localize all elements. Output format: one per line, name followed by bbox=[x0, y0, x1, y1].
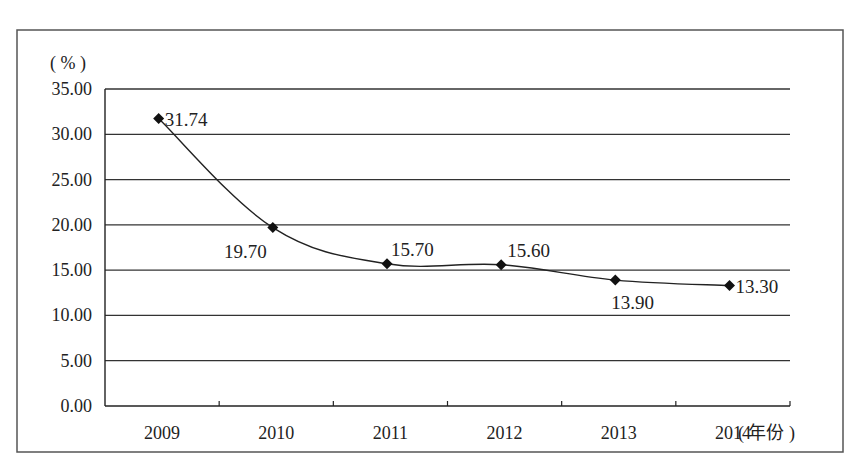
x-tick-label: 2009 bbox=[144, 423, 180, 443]
data-label: 31.74 bbox=[165, 109, 208, 130]
x-tick-label: 2011 bbox=[373, 423, 408, 443]
data-label: 19.70 bbox=[224, 241, 267, 262]
x-axis-unit: ( 年份 ) bbox=[738, 423, 795, 444]
data-label: 15.70 bbox=[391, 239, 434, 260]
y-axis-ticks: 0.005.0010.0015.0020.0025.0030.0035.00 bbox=[52, 79, 93, 416]
y-tick-label: 0.00 bbox=[61, 396, 93, 416]
gridlines bbox=[105, 89, 790, 361]
data-label: 13.30 bbox=[735, 276, 778, 297]
diamond-marker-icon bbox=[724, 280, 735, 291]
x-tick-label: 2013 bbox=[601, 423, 637, 443]
diamond-marker-icon bbox=[381, 258, 392, 269]
y-tick-label: 30.00 bbox=[52, 124, 93, 144]
diamond-marker-icon bbox=[610, 275, 621, 286]
x-tick-label: 2012 bbox=[487, 423, 523, 443]
diamond-marker-icon bbox=[267, 222, 278, 233]
x-tick-label: 2010 bbox=[258, 423, 294, 443]
data-labels: 31.7419.7015.7015.6013.9013.30 bbox=[165, 109, 779, 314]
y-tick-label: 5.00 bbox=[61, 351, 93, 371]
y-tick-label: 20.00 bbox=[52, 215, 93, 235]
y-axis-unit: ( % ) bbox=[50, 53, 86, 74]
y-tick-label: 10.00 bbox=[52, 305, 93, 325]
diamond-marker-icon bbox=[496, 259, 507, 270]
data-label: 13.90 bbox=[611, 292, 654, 313]
y-tick-label: 35.00 bbox=[52, 79, 93, 99]
data-label: 15.60 bbox=[507, 240, 550, 261]
y-tick-label: 25.00 bbox=[52, 170, 93, 190]
line-chart: 0.005.0010.0015.0020.0025.0030.0035.00 2… bbox=[0, 0, 848, 468]
y-tick-label: 15.00 bbox=[52, 260, 93, 280]
